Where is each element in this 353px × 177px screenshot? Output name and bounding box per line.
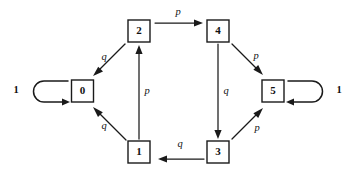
- edge-arrowhead-2-to-4: [194, 19, 203, 26]
- node-2[interactable]: 2: [128, 20, 150, 42]
- node-1-label: 1: [136, 145, 142, 157]
- self-loop-arrowhead-node-0: [62, 99, 70, 106]
- edge-label-3-to-1: q: [177, 138, 182, 149]
- self-loop-arrowhead-node-5: [286, 99, 294, 106]
- edge-3-to-5: p: [232, 108, 263, 139]
- edge-label-4-to-3: q: [223, 85, 228, 96]
- edge-label-1-to-2: p: [143, 85, 149, 96]
- edge-label-2-to-0: q: [101, 51, 106, 62]
- edge-arrowhead-3-to-1: [158, 155, 167, 162]
- edge-2-to-0: q: [93, 44, 125, 76]
- self-loop-curve-node-5: [288, 81, 323, 102]
- self-loop-label-node-0: 1: [13, 84, 18, 95]
- node-0[interactable]: 0: [72, 80, 94, 102]
- node-3-label: 3: [215, 145, 221, 157]
- node-1[interactable]: 1: [128, 141, 150, 163]
- state-diagram: 1 1 p q q p: [0, 0, 353, 177]
- node-4[interactable]: 4: [207, 20, 229, 42]
- edge-label-2-to-4: p: [174, 6, 180, 17]
- self-loop-label-node-5: 1: [336, 84, 341, 95]
- edge-3-to-1: q: [158, 138, 204, 162]
- edge-label-1-to-0: q: [101, 120, 106, 131]
- node-5-label: 5: [270, 84, 276, 96]
- node-4-label: 4: [215, 24, 221, 36]
- edge-2-to-4: p: [155, 6, 203, 26]
- edge-label-3-to-5: p: [253, 122, 259, 133]
- self-loop-curve-node-0: [34, 81, 68, 102]
- edge-1-to-2: p: [135, 45, 149, 139]
- edge-arrowhead-1-to-2: [135, 45, 142, 54]
- edge-arrowhead-4-to-3: [214, 130, 221, 139]
- edge-4-to-3: q: [214, 44, 228, 139]
- node-5[interactable]: 5: [262, 80, 284, 102]
- node-3[interactable]: 3: [207, 141, 229, 163]
- edge-4-to-5: p: [232, 44, 263, 75]
- edge-1-to-0: q: [93, 107, 126, 140]
- self-loop-node-0: 1: [13, 81, 70, 105]
- node-0-label: 0: [80, 84, 86, 96]
- state-diagram-canvas: 1 1 p q q p: [0, 0, 353, 177]
- self-loop-node-5: 1: [286, 81, 342, 105]
- node-2-label: 2: [136, 24, 142, 36]
- edge-label-4-to-5: p: [252, 50, 258, 61]
